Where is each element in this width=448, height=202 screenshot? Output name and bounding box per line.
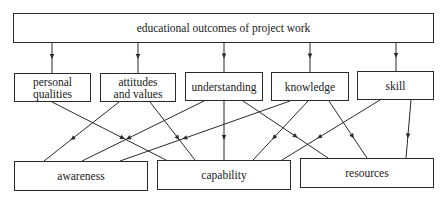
box-capability: capability (157, 160, 291, 190)
arrowhead-icon (222, 135, 227, 140)
box-knowledge: knowledge (271, 72, 349, 101)
bottom-label: resources (345, 167, 388, 179)
label-line: skill (386, 80, 406, 92)
label-line: knowledge (285, 81, 335, 93)
edge-knowledge-to-capability (253, 101, 308, 160)
label-line: attitudes (114, 76, 163, 88)
edge-skill-to-resources (406, 100, 411, 158)
bottom-label: awareness (57, 170, 104, 182)
arrowhead-icon (394, 53, 399, 58)
box-skill: skill (357, 71, 434, 100)
root-box-educational-outcomes: educational outcomes of project work (13, 13, 434, 43)
arrowhead-icon (136, 54, 141, 59)
edge-knowledge-to-awareness (120, 101, 290, 161)
label-line: and values (114, 88, 163, 100)
arrowhead-icon (406, 133, 411, 138)
box-personal-qualities: personal qualities (14, 73, 91, 102)
box-understanding: understanding (185, 72, 263, 101)
box-awareness: awareness (14, 161, 148, 191)
box-resources: resources (300, 158, 434, 188)
arrowhead-icon (292, 133, 297, 138)
diagram-canvas: educational outcomes of project work per… (0, 0, 448, 202)
root-label: educational outcomes of project work (137, 22, 311, 34)
edge-understanding-to-awareness (82, 101, 204, 161)
arrowhead-icon (308, 54, 313, 59)
edge-knowledge-to-resources (329, 101, 367, 158)
box-attitudes-and-values: attitudes and values (100, 73, 176, 102)
edge-attitudes-to-awareness (44, 102, 119, 161)
arrowhead-icon (222, 54, 227, 59)
edge-understanding-to-resources (243, 101, 328, 158)
arrowhead-icon (349, 133, 354, 138)
bottom-label: capability (201, 169, 246, 181)
label-line: understanding (191, 81, 256, 93)
label-line: qualities (33, 88, 72, 100)
label-line: personal (33, 76, 72, 88)
edge-attitudes-to-capability (150, 102, 195, 160)
edge-skill-to-capability (282, 100, 380, 160)
arrowhead-icon (182, 135, 187, 139)
arrowhead-icon (50, 54, 55, 59)
